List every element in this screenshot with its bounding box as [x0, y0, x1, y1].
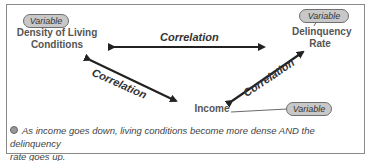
delinquency-label-line1: Delinquency [292, 26, 348, 38]
bullet-icon [10, 126, 18, 134]
top-correlation-label: Correlation [160, 31, 219, 43]
explanation-note: As income goes down, living conditions b… [10, 124, 350, 161]
income-variable-tag: Variable [286, 102, 332, 116]
delinquency-variable-tag: Variable [299, 9, 349, 23]
delinquency-label: Delinquency Rate [292, 26, 348, 50]
note-line2: rate goes up. [10, 151, 65, 161]
density-label-line1: Density of Living [14, 27, 100, 39]
density-label: Density of Living Conditions [14, 27, 100, 51]
delinquency-label-line2: Rate [292, 38, 348, 50]
income-label: Income [190, 103, 234, 115]
note-line1: As income goes down, living conditions b… [10, 125, 315, 149]
income-connector [231, 109, 287, 112]
density-label-line2: Conditions [14, 39, 100, 51]
density-variable-tag: Variable [23, 14, 69, 28]
